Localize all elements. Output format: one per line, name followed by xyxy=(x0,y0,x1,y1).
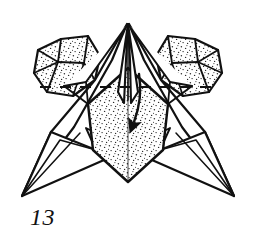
origami-figure: Origami step 13 diagram xyxy=(0,0,256,242)
right-wing-crease-4 xyxy=(172,62,198,63)
diagram-ink xyxy=(22,24,234,196)
step-number-label: 13 xyxy=(30,205,55,229)
left-wing-crease-4 xyxy=(58,62,84,63)
